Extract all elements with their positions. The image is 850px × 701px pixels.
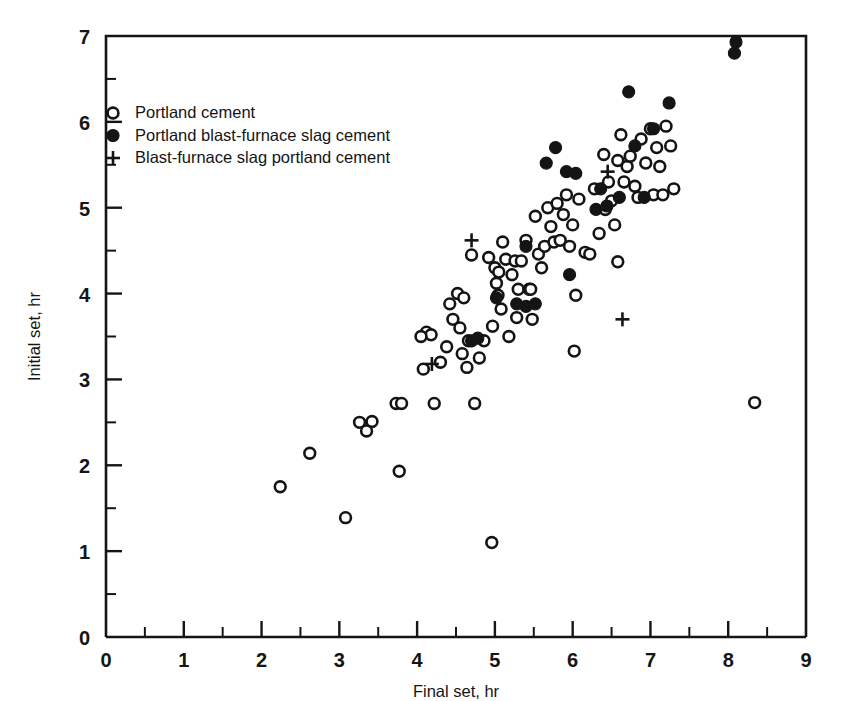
marker-open-circle [418, 364, 429, 375]
marker-open-circle [429, 398, 440, 409]
marker-open-circle [654, 161, 665, 172]
marker-open-circle [367, 416, 378, 427]
marker-open-circle [615, 129, 626, 140]
marker-filled-circle [550, 142, 562, 154]
marker-filled-circle [623, 86, 635, 98]
marker-open-circle [511, 312, 522, 323]
marker-open-circle [474, 353, 485, 364]
marker-open-circle [561, 189, 572, 200]
series-filled-circle [466, 36, 742, 347]
marker-open-circle [497, 237, 508, 248]
x-tick-label: 9 [800, 649, 811, 671]
marker-open-circle [457, 348, 468, 359]
marker-open-circle [530, 211, 541, 222]
marker-open-circle [527, 314, 538, 325]
marker-open-circle [552, 198, 563, 209]
marker-open-circle [619, 177, 630, 188]
marker-open-circle [469, 398, 480, 409]
marker-filled-circle [490, 292, 502, 304]
data-points [275, 36, 760, 548]
marker-open-circle [525, 284, 536, 295]
marker-filled-circle [529, 298, 541, 310]
marker-open-circle [598, 149, 609, 160]
series-open-circle [275, 121, 760, 548]
marker-filled-circle [564, 269, 576, 281]
marker-open-circle [640, 158, 651, 169]
marker-filled-circle [663, 97, 675, 109]
marker-open-circle [657, 189, 668, 200]
marker-open-circle [454, 323, 465, 334]
marker-open-circle [513, 284, 524, 295]
x-tick-label: 7 [645, 649, 656, 671]
marker-open-circle [444, 298, 455, 309]
marker-filled-circle [601, 200, 613, 212]
legend: Portland cementPortland blast-furnace sl… [106, 103, 390, 166]
marker-filled-circle [540, 157, 552, 169]
marker-open-circle [466, 250, 477, 261]
marker-open-circle [441, 341, 452, 352]
y-tick-label: 2 [79, 455, 90, 477]
marker-open-circle [396, 398, 407, 409]
x-tick-label: 2 [256, 649, 267, 671]
marker-filled-circle [472, 332, 484, 344]
y-tick-label: 7 [79, 26, 90, 48]
marker-open-circle [458, 292, 469, 303]
legend-entry: Blast-furnace slag portland cement [106, 148, 390, 166]
marker-open-circle [496, 304, 507, 315]
marker-open-circle [486, 537, 497, 548]
x-tick-label: 0 [100, 649, 111, 671]
x-tick-label: 6 [567, 649, 578, 671]
marker-open-circle [394, 466, 405, 477]
marker-filled-circle [590, 203, 602, 215]
y-tick-label: 3 [79, 369, 90, 391]
marker-filled-circle [629, 140, 641, 152]
marker-open-circle [516, 256, 527, 267]
marker-open-circle [609, 219, 620, 230]
marker-open-circle [558, 209, 569, 220]
marker-open-circle [668, 183, 679, 194]
marker-filled-circle [638, 191, 650, 203]
marker-open-circle [340, 512, 351, 523]
marker-filled-circle [570, 167, 582, 179]
x-tick-label: 3 [334, 649, 345, 671]
x-tick-label: 8 [723, 649, 734, 671]
marker-open-circle [651, 142, 662, 153]
x-tick-label: 1 [178, 649, 189, 671]
marker-open-circle [275, 481, 286, 492]
y-tick-label: 1 [79, 541, 90, 563]
marker-open-circle [594, 228, 605, 239]
marker-open-circle [612, 256, 623, 267]
marker-open-circle [665, 140, 676, 151]
series-plus [425, 165, 630, 371]
marker-open-circle [416, 331, 427, 342]
y-tick-label: 6 [79, 112, 90, 134]
legend-label: Portland cement [135, 103, 256, 121]
marker-filled-circle [107, 130, 119, 142]
marker-open-circle [536, 262, 547, 273]
marker-filled-circle [613, 191, 625, 203]
legend-label: Blast-furnace slag portland cement [135, 148, 390, 166]
marker-open-circle [108, 108, 119, 119]
marker-filled-circle [730, 36, 742, 48]
marker-open-circle [491, 278, 502, 289]
marker-open-circle [749, 397, 760, 408]
marker-open-circle [507, 269, 518, 280]
marker-open-circle [573, 194, 584, 205]
legend-entry: Portland cement [108, 103, 256, 121]
marker-open-circle [483, 252, 494, 263]
x-tick-label: 5 [489, 649, 500, 671]
marker-open-circle [545, 221, 556, 232]
axis-titles: Final set, hrInitial set, hr [25, 292, 500, 700]
marker-filled-circle [728, 47, 740, 59]
legend-label: Portland blast-furnace slag cement [135, 126, 390, 144]
marker-filled-circle [595, 183, 607, 195]
marker-open-circle [564, 241, 575, 252]
marker-open-circle [661, 121, 672, 132]
chart-canvas: 012345678901234567 Portland cementPortla… [0, 0, 850, 701]
legend-entry: Portland blast-furnace slag cement [107, 126, 390, 144]
marker-open-circle [584, 249, 595, 260]
marker-filled-circle [648, 123, 660, 135]
marker-open-circle [487, 321, 498, 332]
y-tick-label: 5 [79, 198, 90, 220]
marker-filled-circle [520, 240, 532, 252]
